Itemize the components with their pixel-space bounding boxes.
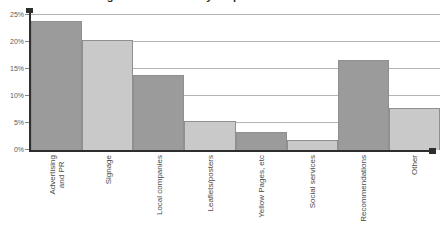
bar-signage: [82, 40, 133, 150]
y-axis-label: 25%: [0, 11, 24, 18]
bar-chart: Marketing channels used by respondents 2…: [0, 0, 447, 237]
bar-local-companies: [133, 75, 184, 150]
bar-recommendations: [338, 60, 389, 150]
chart-title-strip: Marketing channels used by respondents: [0, 0, 447, 3]
x-axis-label-cell: Recommendations: [338, 153, 389, 237]
x-axis-label-line: Signage: [103, 155, 112, 184]
y-axis-label: 0%: [0, 146, 24, 153]
x-axis-label-cell: Yellow Pages, etc: [236, 153, 287, 237]
plot-area: [31, 14, 440, 150]
x-axis-label-cell: Social services: [287, 153, 338, 237]
x-axis-label-social-services: Social services: [308, 155, 317, 208]
x-axis-label-advertising-and-pr: Advertising and PR: [48, 155, 66, 195]
x-axis-label-signage: Signage: [103, 155, 112, 184]
y-axis-labels: 25% 20% 15% 10% 5% 0%: [0, 0, 24, 237]
bar-series: [31, 14, 440, 150]
x-axis-label-other: Other: [410, 155, 419, 175]
x-axis-label-line: and PR: [57, 155, 66, 195]
bar-leaflets-posters: [184, 121, 235, 150]
x-axis-labels: Advertising and PR Signage Local compani…: [31, 153, 440, 237]
bar-other: [389, 108, 440, 150]
x-axis-label-line: Social services: [308, 155, 317, 208]
x-axis-label-cell: Signage: [82, 153, 133, 237]
x-axis-label-line: Local companies: [154, 155, 163, 215]
y-axis-label: 5%: [0, 119, 24, 126]
chart-title: Marketing channels used by respondents: [60, 0, 284, 2]
bar-advertising-and-pr: [31, 21, 82, 150]
y-axis-label: 20%: [0, 38, 24, 45]
x-axis-label-line: Leaflets/posters: [205, 155, 214, 211]
x-axis-label-line: Recommendations: [359, 155, 368, 222]
bar-social-services: [287, 140, 338, 150]
x-axis-label-line: Advertising: [48, 155, 57, 195]
y-axis-line: [29, 11, 31, 152]
x-axis-line: [29, 150, 433, 152]
x-axis-label-yellow-pages-etc: Yellow Pages, etc: [257, 155, 266, 218]
x-axis-label-line: Other: [410, 155, 419, 175]
x-axis-label-cell: Advertising and PR: [31, 153, 82, 237]
x-axis-label-recommendations: Recommendations: [359, 155, 368, 222]
x-axis-label-leaflets-posters: Leaflets/posters: [205, 155, 214, 211]
x-axis-label-line: Yellow Pages, etc: [257, 155, 266, 218]
bar-yellow-pages-etc: [236, 132, 287, 150]
y-axis-label: 15%: [0, 65, 24, 72]
x-axis-label-local-companies: Local companies: [154, 155, 163, 215]
y-axis-label: 10%: [0, 92, 24, 99]
x-axis-label-cell: Local companies: [133, 153, 184, 237]
x-axis-label-cell: Other: [389, 153, 440, 237]
x-axis-label-cell: Leaflets/posters: [184, 153, 235, 237]
